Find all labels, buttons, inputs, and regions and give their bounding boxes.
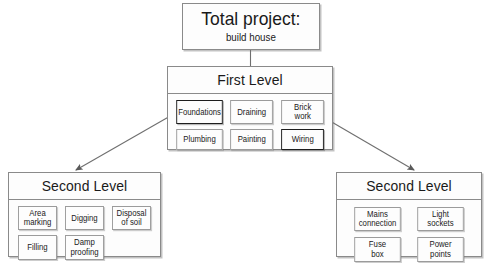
total-project-subtitle: build house: [226, 32, 276, 44]
task-damp-proofing[interactable]: Damp proofing: [65, 235, 104, 259]
second-level-left-task-grid: Area marking Digging Disposal of soil Fi…: [9, 200, 160, 266]
task-digging[interactable]: Digging: [65, 206, 104, 230]
second-level-right-task-grid: Mains connection Light sockets Fuse box …: [337, 200, 481, 266]
connector-foundations-to-left-second-level: [76, 115, 172, 170]
first-level-panel[interactable]: First Level Foundations Draining Brick w…: [167, 66, 333, 150]
total-project-box[interactable]: Total project: build house: [182, 3, 320, 50]
task-draining[interactable]: Draining: [230, 100, 273, 124]
task-wiring[interactable]: Wiring: [281, 129, 324, 150]
total-project-title: Total project:: [201, 9, 300, 29]
connector-wiring-to-right-second-level: [330, 121, 414, 170]
task-fuse-box[interactable]: Fuse box: [354, 237, 401, 261]
second-level-right-panel[interactable]: Second Level Mains connection Light sock…: [336, 172, 482, 257]
task-mains-connection[interactable]: Mains connection: [354, 207, 401, 231]
second-level-left-panel[interactable]: Second Level Area marking Digging Dispos…: [8, 172, 161, 257]
task-light-sockets[interactable]: Light sockets: [417, 207, 464, 231]
task-area-marking[interactable]: Area marking: [18, 206, 57, 230]
first-level-title: First Level: [174, 67, 327, 93]
first-level-task-grid: Foundations Draining Brick work Plumbing…: [168, 94, 332, 157]
task-plumbing[interactable]: Plumbing: [176, 129, 223, 150]
task-painting[interactable]: Painting: [230, 129, 273, 150]
task-brick-work[interactable]: Brick work: [281, 100, 324, 124]
task-filling[interactable]: Filling: [18, 235, 57, 259]
second-level-left-title: Second Level: [14, 173, 154, 199]
diagram-canvas: Total project: build house First Level F…: [0, 0, 490, 266]
second-level-right-title: Second Level: [342, 173, 476, 199]
task-disposal-of-soil[interactable]: Disposal of soil: [112, 206, 151, 230]
task-foundations[interactable]: Foundations: [176, 100, 223, 124]
task-power-points[interactable]: Power points: [417, 237, 464, 261]
